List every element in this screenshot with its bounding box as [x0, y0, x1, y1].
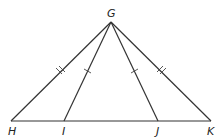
geometry-diagram: G H I J K [0, 0, 220, 140]
segment-GK [111, 22, 211, 121]
segment-GH [11, 22, 111, 121]
label-G: G [107, 7, 116, 20]
label-I: I [62, 125, 65, 138]
double-tick-mark-GH [56, 66, 65, 74]
double-tick-mark-GK [157, 66, 166, 74]
label-K: K [207, 125, 215, 138]
label-J: J [154, 125, 159, 138]
label-H: H [8, 125, 16, 138]
